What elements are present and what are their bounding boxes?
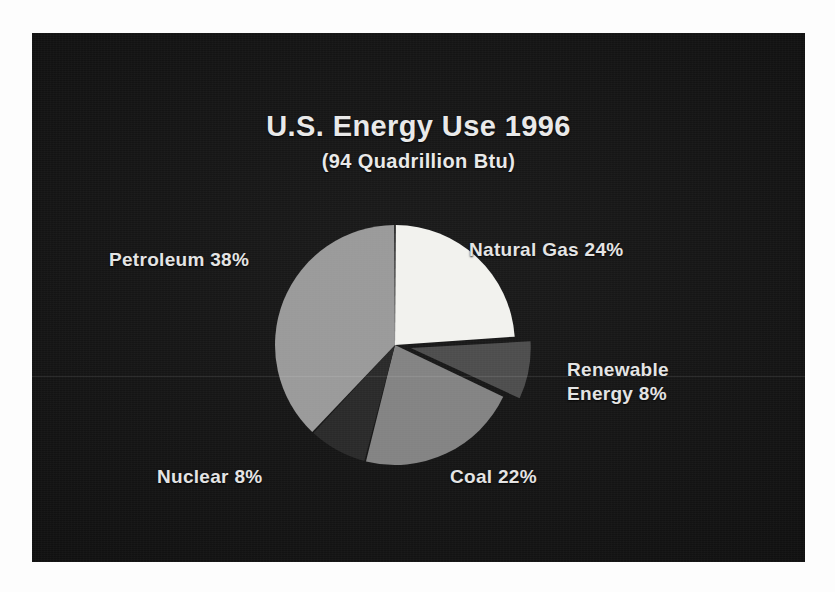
slice-label-coal: Coal 22% xyxy=(450,465,537,489)
chart-panel: U.S. Energy Use 1996 (94 Quadrillion Btu… xyxy=(32,33,805,562)
slice-label-petroleum: Petroleum 38% xyxy=(109,248,249,272)
slice-label-renewable-energy: Renewable Energy 8% xyxy=(567,358,669,407)
slice-label-renewable-energy-line1: Renewable xyxy=(567,358,669,382)
page-title: U.S. Energy Use 1996 xyxy=(32,110,805,143)
slice-label-nuclear: Nuclear 8% xyxy=(157,465,262,489)
slice-label-renewable-energy-line2: Energy 8% xyxy=(567,382,669,406)
figure-root: U.S. Energy Use 1996 (94 Quadrillion Btu… xyxy=(0,0,835,592)
slice-label-natural-gas: Natural Gas 24% xyxy=(469,238,623,262)
page-subtitle: (94 Quadrillion Btu) xyxy=(32,150,805,173)
